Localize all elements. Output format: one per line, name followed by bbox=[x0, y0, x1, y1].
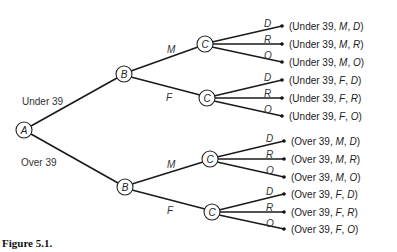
node-c-over-f: C bbox=[204, 204, 220, 220]
label-under-39: Under 39 bbox=[22, 96, 64, 107]
tree-diagram: A B B C C C C Under 39 Over 39 M F M F D… bbox=[0, 0, 397, 252]
svg-text:R: R bbox=[264, 88, 271, 99]
svg-text:O: O bbox=[264, 50, 272, 61]
figure-caption: Figure 5.1. bbox=[2, 237, 52, 249]
svg-text:O: O bbox=[264, 104, 272, 115]
svg-text:R: R bbox=[266, 149, 273, 160]
outcome-5: (Under 39, F, R) bbox=[289, 93, 361, 104]
svg-text:B: B bbox=[121, 69, 128, 80]
edge-b-under-to-c-m bbox=[131, 47, 198, 71]
outcome-10: (Over 39, F, D) bbox=[291, 189, 358, 200]
label-gender-m-over: M bbox=[167, 159, 176, 170]
svg-text:D: D bbox=[264, 18, 271, 29]
outcome-3: (Under 39, M, O) bbox=[289, 57, 364, 68]
svg-text:O: O bbox=[266, 165, 274, 176]
svg-text:D: D bbox=[266, 133, 273, 144]
outcome-8: (Over 39, M, R) bbox=[291, 154, 360, 165]
outcome-11: (Over 39, F, R) bbox=[291, 207, 358, 218]
svg-text:C: C bbox=[206, 154, 214, 165]
outcome-7: (Over 39, M, D) bbox=[291, 136, 360, 147]
svg-text:C: C bbox=[208, 207, 216, 218]
svg-text:R: R bbox=[264, 34, 271, 45]
label-gender-f-over: F bbox=[167, 205, 174, 216]
svg-text:B: B bbox=[122, 182, 129, 193]
outcome-6: (Under 39, F, O) bbox=[289, 111, 362, 122]
svg-text:D: D bbox=[266, 186, 273, 197]
svg-text:A: A bbox=[20, 125, 28, 136]
node-c-under-m: C bbox=[197, 36, 213, 52]
node-b-over: B bbox=[117, 179, 133, 195]
outcome-1: (Under 39, M, D) bbox=[289, 21, 364, 32]
node-c-over-m: C bbox=[202, 151, 218, 167]
svg-text:O: O bbox=[266, 218, 274, 229]
svg-text:R: R bbox=[266, 202, 273, 213]
outcome-9: (Over 39, M, O) bbox=[291, 172, 361, 183]
label-over-39: Over 39 bbox=[21, 157, 57, 168]
label-gender-m-under: M bbox=[167, 44, 176, 55]
svg-text:C: C bbox=[201, 39, 209, 50]
outcome-list: (Under 39, M, D) (Under 39, M, R) (Under… bbox=[289, 21, 364, 235]
leaf-dots bbox=[280, 24, 286, 231]
node-c-under-f: C bbox=[199, 90, 215, 106]
leaf-edges bbox=[212, 26, 284, 229]
outcome-2: (Under 39, M, R) bbox=[289, 39, 364, 50]
node-a: A bbox=[16, 122, 32, 138]
svg-text:D: D bbox=[264, 72, 271, 83]
outcome-4: (Under 39, F, D) bbox=[289, 75, 361, 86]
node-b-under: B bbox=[116, 66, 132, 82]
label-gender-f-under: F bbox=[166, 92, 173, 103]
svg-text:C: C bbox=[203, 93, 211, 104]
outcome-12: (Over 39, F, O) bbox=[291, 224, 358, 235]
